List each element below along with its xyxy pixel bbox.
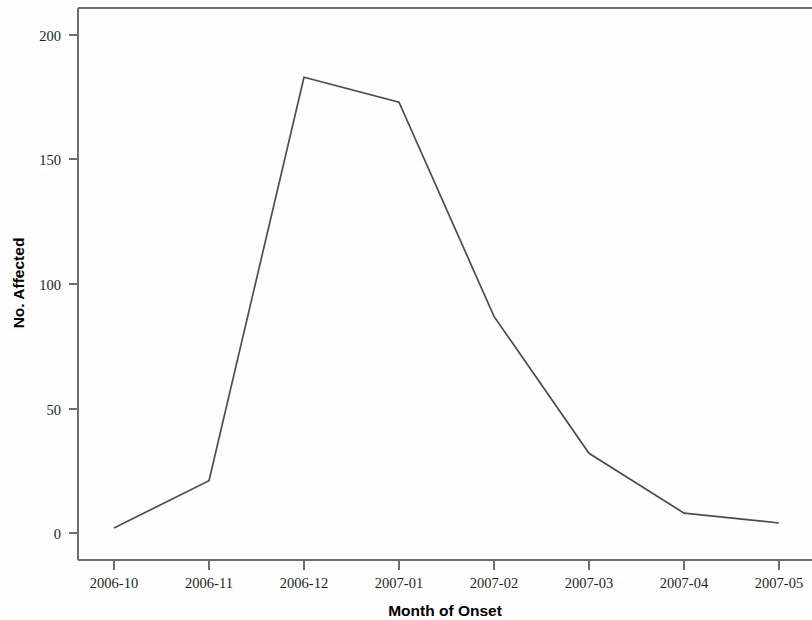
x-tick-label-2007-01: 2007-01 xyxy=(375,575,423,591)
x-tick-label-2007-03: 2007-03 xyxy=(565,575,613,591)
y-axis-tick-labels: 200 150 100 50 0 xyxy=(39,28,61,542)
x-tick-label-2006-10: 2006-10 xyxy=(90,575,138,591)
x-tick-label-2006-12: 2006-12 xyxy=(280,575,328,591)
y-tick-label-0: 0 xyxy=(54,526,61,542)
y-tick-label-50: 50 xyxy=(47,402,62,418)
y-tick-label-150: 150 xyxy=(39,152,61,168)
x-tick-label-2007-04: 2007-04 xyxy=(660,575,709,591)
y-axis-ticks xyxy=(69,35,78,533)
x-axis-tick-labels: 2006-10 2006-11 2006-12 2007-01 2007-02 … xyxy=(90,575,803,591)
epidemic-curve-figure: 200 150 100 50 0 2006-10 2006-11 2006-12… xyxy=(0,0,812,620)
x-axis-ticks xyxy=(114,560,779,570)
data-series-line xyxy=(114,77,779,528)
x-tick-label-2006-11: 2006-11 xyxy=(185,575,233,591)
x-tick-label-2007-02: 2007-02 xyxy=(470,575,518,591)
y-axis-title: No. Affected xyxy=(10,238,27,329)
y-tick-label-200: 200 xyxy=(39,28,61,44)
y-tick-label-100: 100 xyxy=(39,277,61,293)
x-axis-title: Month of Onset xyxy=(388,602,502,619)
line-chart: 200 150 100 50 0 2006-10 2006-11 2006-12… xyxy=(0,0,812,620)
x-tick-label-2007-05: 2007-05 xyxy=(755,575,803,591)
